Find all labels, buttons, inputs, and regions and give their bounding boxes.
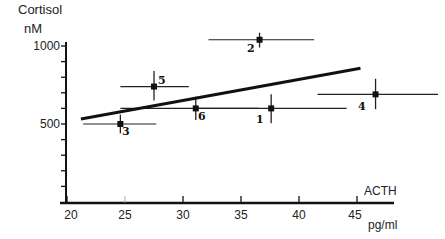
data-point-marker <box>268 105 274 111</box>
x-tick-label-35: 35 <box>234 208 247 222</box>
point-label-6: 6 <box>198 110 206 123</box>
scatter-plot <box>0 0 445 239</box>
data-point-marker <box>151 84 157 90</box>
y-tick-label-500: 500 <box>20 117 60 131</box>
x-tick-label-30: 30 <box>176 208 189 222</box>
y-tick-label-1000: 1000 <box>20 39 60 53</box>
axes <box>60 42 394 204</box>
x-axis-unit: pg/ml <box>368 218 397 232</box>
fit-line <box>81 68 361 119</box>
data-point-marker <box>257 37 263 43</box>
point-label-1: 1 <box>256 113 264 126</box>
data-point-marker <box>373 91 379 97</box>
y-axis-unit: nM <box>24 21 42 36</box>
point-label-2: 2 <box>247 42 255 55</box>
regression-line <box>81 68 361 119</box>
x-tick-label-40: 40 <box>292 208 305 222</box>
x-tick-label-20: 20 <box>64 208 77 222</box>
point-label-3: 3 <box>122 125 130 138</box>
x-tick-label-25: 25 <box>118 208 131 222</box>
x-axis-title: ACTH <box>364 184 397 198</box>
point-label-4: 4 <box>358 100 366 113</box>
x-tick-label-45: 45 <box>348 208 361 222</box>
point-label-5: 5 <box>158 74 166 87</box>
y-axis-title: Cortisol <box>18 2 62 17</box>
